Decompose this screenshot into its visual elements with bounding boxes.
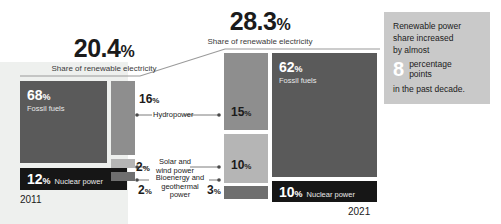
hydro-2021-value: 15% [231, 105, 251, 119]
solar-wind-2021-value: 10% [231, 158, 251, 172]
percent-symbol: % [244, 109, 251, 118]
bar-segment-solar-wind-2021[interactable]: 10% [224, 134, 268, 183]
fossil-2021-value: 62% [279, 59, 303, 75]
info-highlight: 8 percentage points [393, 59, 482, 79]
info-word-2: points [409, 69, 452, 79]
info-line-1: Renewable power [393, 20, 482, 32]
bar-segment-nuclear-2021[interactable]: 10%Nuclear power [272, 181, 377, 202]
nuclear-2021-name: Nuclear power [307, 189, 355, 198]
info-line-3: by almost [393, 44, 482, 56]
bar-segment-hydro-2021[interactable]: 15% [224, 53, 268, 130]
info-big-number: 8 [393, 59, 404, 79]
bar-segment-fossil-2021-label: 62% Fossil fuels [279, 59, 317, 85]
info-line-4: in the past decade. [393, 83, 482, 95]
infographic-root: 20.4% Share of renewable electricity 28.… [0, 0, 501, 224]
bar-segment-nuclear-2021-label: 10%Nuclear power [279, 183, 355, 200]
info-big-number-words: percentage points [409, 59, 452, 79]
nuclear-2021-value: 10% [279, 183, 303, 199]
fossil-2021-name: Fossil fuels [279, 77, 317, 85]
info-word-1: percentage [409, 59, 452, 69]
percent-symbol: % [295, 64, 303, 74]
info-callout-box: Renewable power share increased by almos… [384, 12, 490, 104]
bar-segment-bioenergy-2021[interactable] [224, 186, 268, 199]
percent-symbol: % [244, 162, 251, 171]
bar-segment-fossil-2021[interactable]: 62% Fossil fuels [272, 53, 377, 177]
percent-symbol: % [295, 188, 303, 198]
info-line-2: share increased [393, 32, 482, 44]
year-label-2021: 2021 [348, 206, 370, 217]
